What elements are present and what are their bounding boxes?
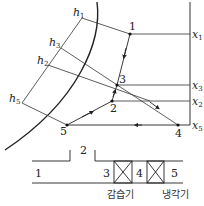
saturation-curve	[5, 2, 98, 150]
enthalpy-line-h1	[82, 18, 130, 34]
enthalpy-axis	[22, 18, 82, 103]
label-x5: x5	[192, 119, 203, 133]
cooler-label: 냉각기	[162, 189, 189, 200]
label-x3: x3	[192, 79, 203, 93]
label-h1: h1	[73, 6, 85, 20]
duct-label-2: 2	[80, 144, 87, 157]
duct-label-1: 1	[35, 167, 42, 180]
humidifier-label: 감습기	[107, 189, 134, 200]
label-x1: x1	[192, 28, 203, 42]
psychrometric-diagram: 1 3 2 5 4 h1 h3 h2 h5 x1 x3 x2 x5 1 2 3 …	[0, 0, 204, 206]
label-point-3: 3	[119, 73, 126, 86]
label-point-4: 4	[175, 127, 182, 140]
duct-label-5: 5	[171, 167, 178, 180]
duct-label-3: 3	[103, 167, 110, 180]
label-h3: h3	[49, 36, 61, 50]
label-h5: h5	[9, 92, 21, 106]
enthalpy-line-h5	[22, 103, 67, 125]
label-h2: h2	[37, 54, 49, 68]
duct-label-4: 4	[136, 167, 143, 180]
label-x2: x2	[192, 95, 203, 109]
enthalpy-line-h3	[61, 48, 178, 125]
enthalpy-line-h2	[48, 65, 150, 101]
label-point-1: 1	[129, 20, 136, 33]
label-point-5: 5	[60, 125, 67, 138]
label-point-2: 2	[110, 102, 117, 115]
